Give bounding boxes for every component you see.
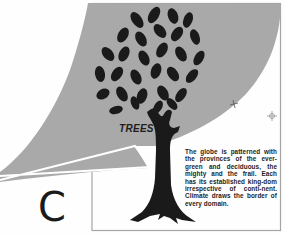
chapter-letter: C bbox=[38, 187, 66, 227]
crosshair-icon bbox=[267, 111, 277, 121]
caption-text: The globe is patterned with the province… bbox=[185, 148, 277, 207]
illustration-page: TREES C The globe is patterned with the … bbox=[0, 0, 285, 236]
illustration-title: TREES bbox=[119, 123, 154, 134]
